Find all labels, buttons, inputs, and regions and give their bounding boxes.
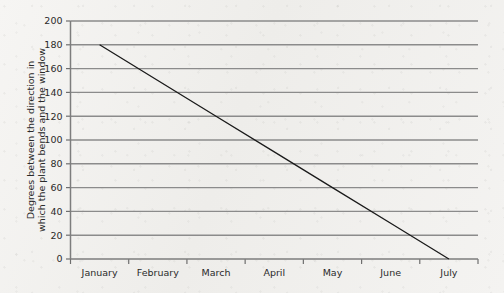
data-series-line: [100, 45, 449, 259]
y-tick-label-60: 60: [50, 182, 62, 193]
x-tick-label-march: March: [202, 267, 231, 278]
gridlines: [71, 21, 479, 235]
x-tick-label-june: June: [379, 267, 401, 278]
y-tick-label-180: 180: [44, 39, 62, 50]
chart-canvas: 020406080100120140160180200 JanuaryFebru…: [0, 0, 504, 293]
line-chart-figure: 020406080100120140160180200 JanuaryFebru…: [0, 0, 504, 293]
y-tick-label-120: 120: [44, 111, 62, 122]
y-tick-label-40: 40: [50, 206, 62, 217]
y-axis-title-line-2: which the plant bends and the window: [36, 48, 47, 232]
y-axis-title: Degrees between the direction in which t…: [25, 48, 47, 232]
y-tick-label-20: 20: [50, 230, 62, 241]
x-tick-label-july: July: [439, 267, 457, 278]
y-tick-label-140: 140: [44, 87, 62, 98]
x-tick-label-january: January: [81, 267, 118, 278]
y-axis-tick-labels: 020406080100120140160180200: [44, 15, 62, 264]
y-tick-label-80: 80: [50, 158, 62, 169]
x-tick-label-april: April: [263, 267, 285, 278]
x-tick-label-february: February: [137, 267, 179, 278]
y-tick-label-100: 100: [44, 134, 62, 145]
y-tick-label-160: 160: [44, 63, 62, 74]
y-tick-label-200: 200: [44, 15, 62, 26]
x-tick-label-may: May: [323, 267, 343, 278]
y-axis-title-line-1: Degrees between the direction in: [25, 61, 36, 220]
y-tick-label-0: 0: [56, 253, 62, 264]
x-axis-tick-labels: JanuaryFebruaryMarchAprilMayJuneJuly: [81, 267, 458, 278]
